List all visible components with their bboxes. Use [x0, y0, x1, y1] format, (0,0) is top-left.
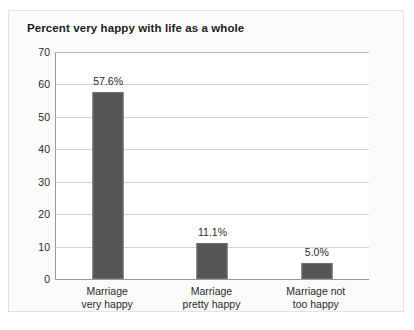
bar-slot: 11.1% [160, 52, 264, 279]
y-axis-tick-label: 30 [38, 176, 50, 188]
bar[interactable] [93, 92, 124, 279]
y-axis-tick-label: 40 [38, 143, 50, 155]
chart-title: Percent very happy with life as a whole [27, 22, 244, 34]
y-axis-tick-label: 60 [38, 78, 50, 90]
chart-figure: Percent very happy with life as a whole … [8, 10, 404, 312]
y-axis-tick-label: 10 [38, 241, 50, 253]
category-label-line: very happy [55, 298, 159, 311]
x-axis-category-label: Marriagepretty happy [159, 285, 263, 311]
bar-value-label: 57.6% [93, 75, 123, 87]
bar[interactable] [301, 263, 332, 279]
bar-value-label: 11.1% [198, 226, 227, 238]
y-axis-tick-label: 50 [38, 111, 50, 123]
y-axis-tick-label: 0 [44, 273, 50, 285]
category-label-line: Marriage [159, 285, 263, 298]
bar-slot: 5.0% [265, 52, 369, 279]
category-label-line: Marriage [55, 285, 159, 298]
category-label-line: too happy [264, 298, 368, 311]
plot-area: 010203040506070 57.6%11.1%5.0% [55, 52, 369, 280]
y-axis-tick-label: 20 [38, 208, 50, 220]
bar-slot: 57.6% [56, 52, 160, 279]
bar-value-label: 5.0% [305, 246, 329, 258]
x-axis-category-label: Marriage nottoo happy [264, 285, 368, 311]
category-label-line: pretty happy [159, 298, 263, 311]
bar-series: 57.6%11.1%5.0% [56, 52, 369, 279]
bar[interactable] [197, 243, 228, 279]
x-axis-category-label: Marriagevery happy [55, 285, 159, 311]
y-axis-tick-label: 70 [38, 46, 50, 58]
category-label-line: Marriage not [264, 285, 368, 298]
